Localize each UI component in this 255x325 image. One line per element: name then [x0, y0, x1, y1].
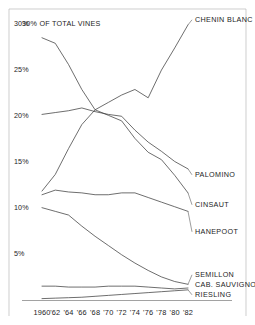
x-axis-tick-label: '66: [77, 308, 87, 317]
leader-line-semillon: [188, 275, 192, 285]
x-axis-tick-label: '70: [103, 308, 113, 317]
x-axis-tick-label: '80: [170, 308, 180, 317]
series-label-chenin-blanc: CHENIN BLANC: [195, 15, 253, 24]
chart-container: 30%25%20%15%10%5% CHENIN BLANCPALOMINOCI…: [0, 0, 255, 325]
series-line-cab-sauvignon: [42, 286, 188, 289]
series-line-chenin-blanc: [42, 25, 188, 191]
series-label-cab-sauvignon: CAB. SAUVIGNON: [195, 280, 255, 289]
leader-line-riesling: [188, 290, 192, 295]
series-line-semillon: [42, 208, 188, 285]
x-axis-tick-label: '82: [183, 308, 193, 317]
leader-lines: [188, 20, 192, 295]
y-axis: 30%25%20%15%10%5%: [14, 19, 29, 259]
x-axis-tick-label: '68: [90, 308, 100, 317]
series-layer: [42, 25, 188, 299]
series-line-riesling: [42, 290, 188, 299]
y-axis-tick-label: 5%: [14, 249, 25, 258]
y-axis-tick-label: 20%: [14, 111, 29, 120]
y-axis-tick-label: 15%: [14, 157, 29, 166]
x-axis-tick-label: '74: [130, 308, 140, 317]
chart-title: 30% OF TOTAL VINES: [22, 19, 101, 28]
x-axis-tick-label: '76: [143, 308, 153, 317]
series-label-hanepoot: HANEPOOT: [195, 227, 238, 236]
line-chart: 30%25%20%15%10%5% CHENIN BLANCPALOMINOCI…: [0, 0, 255, 325]
series-line-hanepoot: [42, 190, 188, 211]
x-axis-tick-label: 1960: [33, 308, 50, 317]
leader-line-palomino: [188, 169, 192, 175]
y-axis-tick-label: 10%: [14, 203, 29, 212]
leader-line-chenin-blanc: [188, 20, 192, 25]
x-axis-tick-label: '78: [156, 308, 166, 317]
leader-line-hanepoot: [188, 211, 192, 231]
x-axis-tick-label: '62: [50, 308, 60, 317]
series-label-cinsaut: CINSAUT: [195, 200, 229, 209]
series-label-semillon: SEMILLON: [195, 270, 234, 279]
leader-line-cinsaut: [188, 193, 192, 205]
series-label-palomino: PALOMINO: [195, 170, 235, 179]
series-label-riesling: RIESLING: [195, 290, 231, 299]
x-axis: 1960'62'64'66'68'70'72'74'76'78'80'82: [33, 308, 193, 317]
x-axis-tick-label: '64: [63, 308, 73, 317]
series-line-palomino: [42, 108, 188, 169]
y-axis-tick-label: 25%: [14, 65, 29, 74]
x-axis-tick-label: '72: [117, 308, 127, 317]
